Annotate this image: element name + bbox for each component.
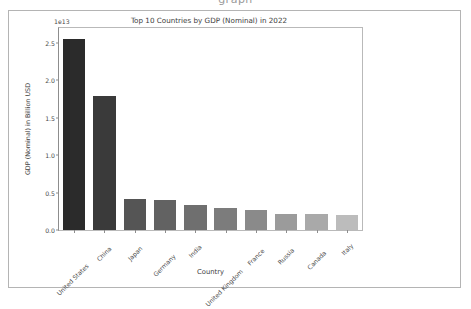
- bar-slot: [332, 28, 362, 230]
- bar[interactable]: [275, 214, 297, 230]
- bar-slot: [301, 28, 331, 230]
- x-axis-title: Country: [58, 268, 363, 276]
- y-axis-title: GDP (Nominal) in Billion USD: [24, 83, 32, 175]
- x-tick-mark: [226, 230, 227, 233]
- x-tick-label: France: [262, 234, 282, 254]
- bar[interactable]: [184, 205, 206, 230]
- bar-slot: [241, 28, 271, 230]
- x-tick-label: Russia: [292, 234, 311, 253]
- y-axis-offset-label: 1e13: [54, 18, 70, 25]
- x-tick-label-text: Japan: [126, 245, 143, 262]
- x-tick-label-text: Russia: [277, 247, 296, 266]
- x-tick-mark: [135, 230, 136, 233]
- x-tick-label: India: [200, 234, 216, 250]
- x-tick-mark: [286, 230, 287, 233]
- x-tick-mark: [74, 230, 75, 233]
- bar-slot: [150, 28, 180, 230]
- bar-slot: [120, 28, 150, 230]
- plot-area: 0.00.51.01.52.02.5 United StatesChinaJap…: [58, 27, 363, 231]
- bar-slot: [180, 28, 210, 230]
- bar-slot: [271, 28, 301, 230]
- x-tick-label-text: Italy: [340, 242, 354, 256]
- bar[interactable]: [336, 215, 358, 230]
- bar[interactable]: [245, 210, 267, 230]
- x-tick-mark: [165, 230, 166, 233]
- x-tick-label: Japan: [140, 234, 157, 251]
- bar-slot: [89, 28, 119, 230]
- x-tick-mark: [256, 230, 257, 233]
- bar[interactable]: [93, 96, 115, 230]
- bar[interactable]: [305, 214, 327, 230]
- bar-series: [59, 28, 362, 230]
- x-tick-mark: [195, 230, 196, 233]
- bar[interactable]: [63, 39, 85, 230]
- bar[interactable]: [124, 199, 146, 230]
- bar-slot: [210, 28, 240, 230]
- bar[interactable]: [214, 208, 236, 230]
- x-tick-label: Italy: [351, 234, 365, 248]
- chart-title: Top 10 Countries by GDP (Nominal) in 202…: [56, 16, 362, 25]
- x-tick-mark: [347, 230, 348, 233]
- bar-slot: [59, 28, 89, 230]
- x-tick-mark: [104, 230, 105, 233]
- x-tick-label-text: China: [96, 245, 113, 262]
- x-tick-mark: [317, 230, 318, 233]
- bar[interactable]: [154, 200, 176, 230]
